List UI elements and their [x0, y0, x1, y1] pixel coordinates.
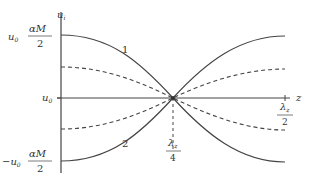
curve-2-label: 2 [122, 138, 128, 149]
y-tick-mid: u0 [42, 92, 52, 104]
svg-text:2: 2 [37, 38, 43, 49]
svg-text:λz: λz [279, 101, 290, 113]
x-tick-quarter: λz 4 [166, 137, 181, 163]
svg-text:2: 2 [37, 163, 43, 174]
y-tick-top: u0 αM 2 [8, 23, 52, 49]
y-axis-label: ui [57, 9, 65, 21]
svg-text:λz: λz [167, 137, 178, 149]
x-tick-half: λz 2 [277, 101, 293, 127]
svg-text:−u0: −u0 [2, 156, 21, 168]
svg-text:u0: u0 [8, 31, 18, 43]
svg-text:2: 2 [282, 117, 288, 127]
svg-text:αM: αM [29, 23, 47, 34]
crossing-point [171, 96, 175, 100]
curve-1-label: 1 [122, 44, 128, 55]
svg-text:4: 4 [170, 153, 176, 163]
svg-text:αM: αM [29, 148, 47, 159]
x-axis-label: z [295, 92, 302, 103]
y-tick-bottom: −u0 αM 2 [2, 148, 52, 174]
diagram-canvas: ui z u0 αM 2 u0 −u0 αM 2 λz 4 λz 2 1 2 [0, 0, 313, 183]
